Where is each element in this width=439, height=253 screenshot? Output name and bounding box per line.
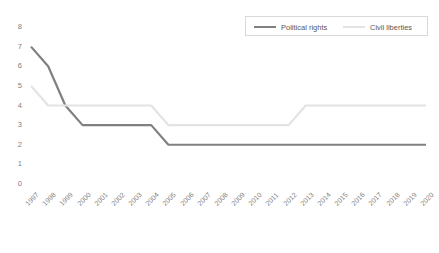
legend-swatch-political-rights [254,26,276,28]
chart-legend: Political rights Civil liberties [245,16,428,36]
legend-swatch-civil-liberties [343,26,365,28]
series-line-political-rights [31,47,426,145]
legend-label-civil-liberties: Civil liberties [370,23,412,32]
legend-entry-political-rights: Political rights [254,21,327,33]
series-line-civil-liberties [31,86,426,125]
legend-entry-civil-liberties: Civil liberties [343,21,412,33]
legend-label-political-rights: Political rights [281,23,327,32]
line-chart: 876543210 199719981999200020012002200320… [0,0,439,253]
plot-area [0,0,439,253]
